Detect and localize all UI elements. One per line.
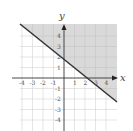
- svg-text:3: 3: [57, 43, 61, 50]
- svg-text:4: 4: [57, 32, 61, 39]
- svg-text:-4: -4: [19, 79, 25, 86]
- x-axis-label: x: [120, 72, 126, 83]
- svg-text:3: 3: [94, 79, 98, 86]
- inequality-graph: x y -4 -3 -2 -1 1 2 3 4 4 3 2 1 -1 -2 -3…: [0, 0, 133, 131]
- svg-text:1: 1: [57, 64, 61, 71]
- svg-text:-2: -2: [40, 79, 46, 86]
- svg-text:-3: -3: [55, 106, 61, 113]
- y-axis-label: y: [58, 10, 65, 21]
- svg-text:-3: -3: [30, 79, 36, 86]
- svg-text:-4: -4: [55, 116, 61, 123]
- svg-text:-2: -2: [55, 95, 61, 102]
- svg-text:1: 1: [73, 79, 77, 86]
- svg-text:2: 2: [84, 79, 88, 86]
- svg-text:-1: -1: [55, 85, 61, 92]
- svg-text:2: 2: [57, 53, 61, 60]
- svg-text:4: 4: [105, 79, 109, 86]
